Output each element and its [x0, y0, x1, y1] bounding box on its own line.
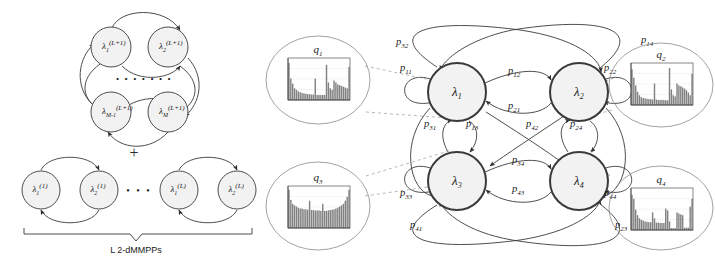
transition-label-p31: p31 [423, 118, 436, 132]
histogram-bar [678, 214, 679, 230]
transition-label-p42: p42 [525, 118, 539, 132]
histogram-bar [659, 223, 660, 230]
histogram-bar [315, 79, 316, 100]
node-circle[interactable] [80, 171, 118, 209]
histogram-insets: q1q2q3q4 [266, 36, 713, 250]
transition-prob-sub: 24 [575, 124, 583, 132]
transition-label-p41: p41 [409, 219, 422, 233]
histogram-bar [650, 222, 651, 230]
histogram-bar [343, 204, 344, 228]
histogram-bar [346, 197, 347, 228]
histogram-bar [642, 221, 643, 230]
histogram-bar [307, 94, 308, 100]
node-label-sub: 2 [94, 190, 97, 196]
transition-prob-sub: 12 [513, 71, 521, 79]
state-node-b4[interactable]: λ2(L) [218, 171, 256, 209]
histogram-bar [330, 210, 331, 228]
node-circle[interactable] [148, 92, 188, 132]
node-label-sup: (L+1) [166, 39, 183, 47]
node-label-sub: 1 [174, 190, 177, 196]
histogram-label-sub: 1 [319, 50, 323, 58]
histogram-bar [311, 210, 312, 228]
histogram-bar [348, 190, 349, 228]
node-circle[interactable] [218, 171, 256, 209]
histogram-bar [656, 100, 657, 105]
plus-symbol: + [129, 144, 138, 161]
histogram-bar [303, 209, 304, 228]
histogram-bar [637, 215, 638, 230]
histogram-bar [671, 89, 672, 105]
histogram-bar [303, 93, 304, 100]
histogram-bar [307, 210, 308, 228]
histogram-bar [691, 74, 692, 105]
state-node-n3[interactable]: λM-1(L+1) [91, 92, 133, 132]
pair-arc-top [179, 157, 237, 170]
histogram-bar [656, 223, 657, 230]
histogram-bar [635, 210, 636, 230]
transition-label-p32: p32 [395, 36, 409, 50]
histogram-bar [345, 201, 346, 228]
histogram-bar [631, 69, 632, 105]
transition-prob-sub: 43 [517, 189, 525, 197]
histogram-bar [635, 86, 636, 106]
histogram-bar [346, 88, 347, 100]
histogram-bar [331, 210, 332, 228]
histogram-bar [644, 98, 645, 105]
state-node-b2[interactable]: λ2(1) [80, 171, 118, 209]
state-node-s3[interactable]: λ3 [428, 152, 486, 210]
node-label-sup: (L) [177, 182, 186, 190]
histogram-bar [330, 88, 331, 100]
histogram-bar [313, 210, 314, 228]
state-node-b1[interactable]: λ1(1) [22, 171, 60, 209]
arc-p42 [561, 120, 570, 152]
brace-caption: L 2-dMMPPs [110, 245, 162, 255]
state-node-n2[interactable]: λ2(L+1) [148, 27, 188, 67]
histogram-bar [669, 221, 670, 230]
histogram-bar [680, 86, 681, 105]
node-circle[interactable] [91, 27, 131, 67]
histogram-bar [652, 212, 653, 230]
transition-prob-sub: 21 [513, 106, 520, 114]
node-circle[interactable] [22, 171, 60, 209]
transition-prob: p32 [395, 36, 409, 50]
histogram-bar [667, 100, 668, 105]
histogram-bar [689, 95, 690, 105]
diagram-svg: λ1(L+1)λ2(L+1)λM-1(L+1)λM(L+1)λ1(1)λ2(1)… [0, 0, 715, 262]
state-node-s1[interactable]: λ1 [428, 63, 486, 121]
state-node-n4[interactable]: λM(L+1) [148, 92, 188, 132]
histogram-bar [676, 212, 677, 230]
histogram-bar [298, 208, 299, 228]
node-circle[interactable] [160, 171, 198, 209]
histogram-bar [299, 92, 300, 100]
histogram-bar [335, 82, 336, 100]
arc-p31 [443, 120, 452, 152]
histogram-bar [646, 99, 647, 105]
histogram-label: q4 [657, 173, 667, 188]
histogram-inset-q2: q2 [609, 43, 713, 127]
histogram-bar [654, 84, 655, 105]
histogram-bar [639, 218, 640, 230]
histogram-bar [341, 86, 342, 100]
histogram-bar [343, 87, 344, 100]
node-label-sub: 2 [580, 92, 584, 101]
histogram-bar [326, 211, 327, 228]
state-node-b3[interactable]: λ1(L) [160, 171, 198, 209]
histogram-bar [292, 84, 293, 100]
histogram-bar [309, 94, 310, 100]
state-node-s4[interactable]: λ4 [550, 152, 608, 210]
state-node-n1[interactable]: λ1(L+1) [91, 27, 131, 67]
histogram-inset-q3: q3 [266, 162, 370, 250]
transition-prob-sub: 32 [400, 42, 409, 50]
node-label-sub: M-1 [105, 112, 116, 118]
transition-prob: p34 [511, 154, 525, 168]
node-circle[interactable] [148, 27, 188, 67]
histogram-bar [676, 84, 677, 105]
histogram-bar [642, 98, 643, 105]
histogram-bar [328, 82, 329, 100]
node-label-sup: (1) [39, 182, 48, 190]
histogram-bar [294, 88, 295, 100]
node-label-sub: M [162, 112, 169, 118]
transition-label-p22: p22 [603, 62, 617, 76]
transition-prob-sub: 41 [415, 225, 422, 233]
state-node-s2[interactable]: λ2 [550, 63, 608, 121]
